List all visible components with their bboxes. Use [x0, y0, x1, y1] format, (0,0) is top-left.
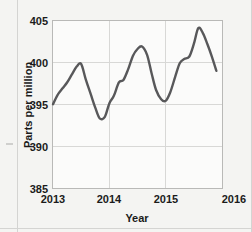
x-axis-title: Year	[125, 212, 149, 224]
xtick-label-2015: 2015	[154, 193, 178, 205]
scan-speck	[6, 143, 13, 145]
line-chart: 405 400 395 390 385 2013 2014 2015 2016 …	[0, 0, 252, 232]
chart-figure: 405 400 395 390 385 2013 2014 2015 2016 …	[0, 0, 252, 232]
xtick-label-2014: 2014	[97, 193, 122, 205]
y-axis-title: Parts per million	[22, 62, 34, 148]
xtick-label-2016: 2016	[222, 193, 246, 205]
ytick-label-405: 405	[30, 15, 48, 27]
xtick-label-2013: 2013	[41, 193, 65, 205]
